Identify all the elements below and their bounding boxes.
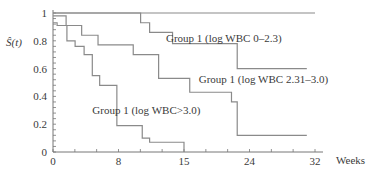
survival-chart: Ŝ(t) 00.20.40.60.8108152432 Group 1 (log… [0, 0, 373, 174]
y-tick-label: 0.6 [33, 63, 47, 75]
x-tick-label: 24 [244, 155, 256, 167]
x-tick-label: 0 [50, 155, 56, 167]
y-tick-label: 0.8 [33, 35, 47, 47]
y-axis-label: Ŝ(t) [6, 36, 22, 49]
y-tick-label: 0 [42, 146, 48, 158]
axes: 00.20.40.60.8108152432 [33, 7, 323, 167]
y-axis-label-group: Ŝ(t) [6, 36, 22, 49]
x-tick-label: 32 [310, 155, 321, 167]
y-tick-label: 1 [42, 7, 48, 19]
x-axis-label: Weeks [336, 154, 365, 166]
y-tick-label: 0.4 [33, 90, 47, 102]
curve-label: Group 1 (log WBC>3.0) [92, 104, 200, 117]
curve-label: Group 1 (log WBC 2.31–3.0) [199, 73, 329, 86]
curve-label: Group 1 (log WBC 0–2.3) [166, 32, 282, 45]
survival-curve-2 [53, 23, 184, 152]
x-tick-label: 8 [116, 155, 122, 167]
y-tick-label: 0.2 [33, 118, 47, 130]
x-tick-label: 15 [179, 155, 191, 167]
